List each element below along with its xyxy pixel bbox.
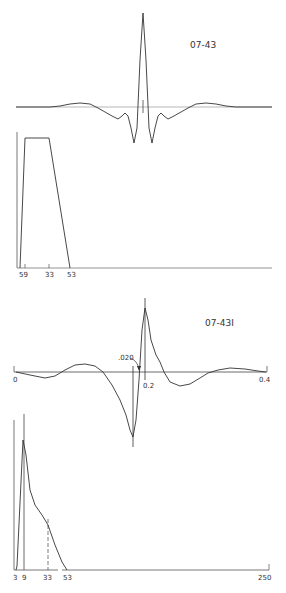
spectrum-plot-07-43I: 3 9 33 53 250 (13, 414, 271, 582)
tick-label-end: 0.4 (259, 376, 271, 384)
tick-label: 59 (19, 271, 28, 279)
tick-label: 33 (45, 271, 54, 279)
tick-label: 9 (22, 574, 26, 582)
spectrum-plot-07-43: 59 33 53 (17, 132, 272, 279)
spectrum-curve (20, 138, 70, 268)
arrow-head (137, 366, 141, 371)
tick-label: 53 (63, 574, 72, 582)
tick-label: 3 (13, 574, 17, 582)
seismic-wavelet-figure: 07-43 59 33 53 0 0.2 0.4 .020 07-43I (0, 0, 286, 593)
plot-title: 07-43 (190, 40, 216, 50)
wavelet-plot-07-43I: 0 0.2 0.4 .020 07-43I (13, 298, 271, 447)
wavelet-curve (16, 13, 272, 143)
wavelet-plot-07-43: 07-43 (16, 13, 272, 143)
tick-label: 53 (67, 271, 76, 279)
tick-label-start: 0 (13, 376, 17, 384)
tick-label: 33 (43, 574, 52, 582)
tick-label: 250 (258, 574, 271, 582)
delay-annotation: .020 (118, 354, 134, 362)
tick-label-mid: 0.2 (143, 382, 154, 390)
plot-title: 07-43I (205, 318, 234, 328)
